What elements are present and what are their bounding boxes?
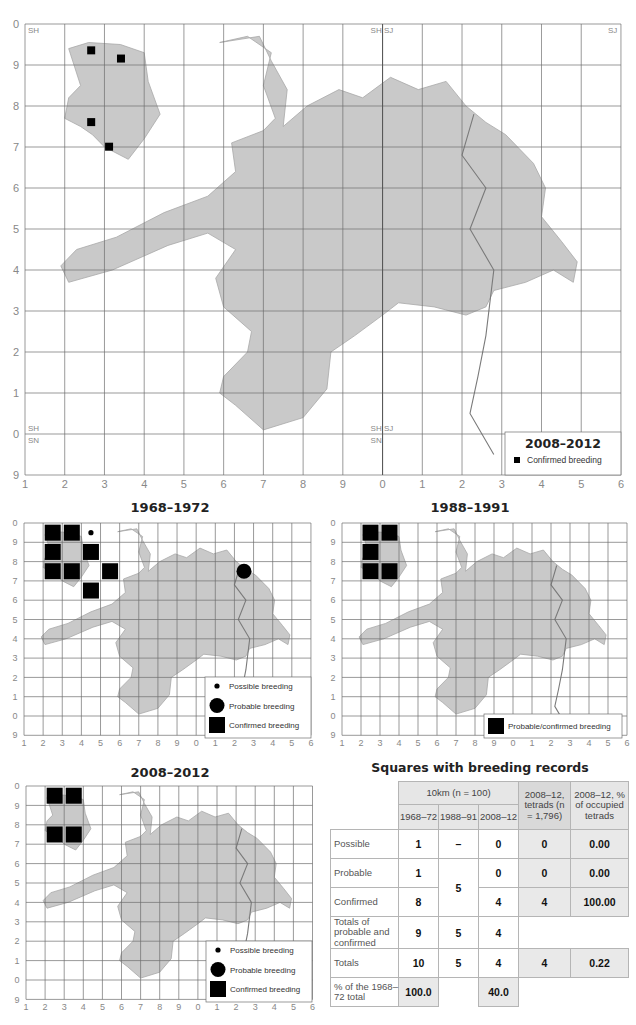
x-tick-label: 7 xyxy=(136,738,141,748)
legend-label: Probable/confirmed breeding xyxy=(508,722,611,731)
grid-square-code: SH SJ xyxy=(371,26,394,35)
x-tick-label: 2 xyxy=(232,738,237,748)
cell-2008-12: 0 xyxy=(479,830,519,859)
y-tick-label: 3 xyxy=(330,653,335,663)
x-tick-label: 1 xyxy=(214,1002,219,1012)
small-square-icon xyxy=(514,457,520,463)
legend-label: Confirmed breeding xyxy=(230,985,300,994)
x-tick-label: 5 xyxy=(98,738,103,748)
y-tick-label: 8 xyxy=(14,820,19,830)
x-tick-label: 1 xyxy=(339,738,344,748)
main-map-canvas: 1234567890123456098765432109SHSH SJSJSHS… xyxy=(0,0,636,490)
grid-square-code: SH xyxy=(28,26,39,35)
main-map: 1234567890123456098765432109SHSH SJSJSHS… xyxy=(0,0,636,490)
cell-pct: 0.22 xyxy=(571,949,629,978)
probable-breeding-marker xyxy=(236,564,251,579)
y-tick-label: 0 xyxy=(13,18,19,30)
x-tick-label: 9 xyxy=(176,1002,181,1012)
y-tick-label: 2 xyxy=(14,936,19,946)
y-tick-label: 1 xyxy=(12,692,17,702)
y-tick-label: 8 xyxy=(330,557,335,567)
y-tick-label: 8 xyxy=(12,557,17,567)
y-tick-label: 9 xyxy=(14,801,19,811)
y-tick-label: 0 xyxy=(14,781,19,791)
y-tick-label: 7 xyxy=(330,576,335,586)
x-tick-label: 4 xyxy=(141,478,147,490)
small-map-1988-1991: 1234567890123456098765432109Probable/con… xyxy=(318,515,636,755)
y-tick-label: 7 xyxy=(13,141,19,153)
empty-cell xyxy=(571,917,629,949)
grid-square-code: SN xyxy=(371,436,382,445)
table-row-probable: Probable 1 5 0 0 0.00 xyxy=(331,859,629,888)
table-row-totals-probable-confirmed: Totals of probable and confirmed 9 5 4 xyxy=(331,917,629,949)
y-tick-label: 9 xyxy=(12,730,17,740)
x-tick-label: 6 xyxy=(618,478,624,490)
x-tick-label: 1 xyxy=(213,738,218,748)
y-tick-label: 1 xyxy=(13,387,19,399)
cell-tetrads: 4 xyxy=(519,888,571,917)
header-pct-occupied: 2008–12, % of occupied tetrads xyxy=(571,782,629,830)
x-tick-label: 6 xyxy=(119,1002,124,1012)
y-tick-label: 0 xyxy=(12,711,17,721)
map-title-2008-2012: 2008–2012 xyxy=(100,765,240,780)
y-tick-label: 6 xyxy=(12,595,17,605)
header-10km: 10km (n = 100) xyxy=(399,782,519,805)
y-tick-label: 0 xyxy=(12,518,17,528)
legend-title: 2008–2012 xyxy=(525,436,601,451)
table-corner xyxy=(331,782,399,805)
x-tick-label: 5 xyxy=(289,738,294,748)
table-row-possible: Possible 1 – 0 0 0.00 xyxy=(331,830,629,859)
x-tick-label: 4 xyxy=(538,478,544,490)
x-tick-label: 3 xyxy=(251,738,256,748)
cell-1968-72: 100.0 xyxy=(399,978,439,1007)
x-tick-label: 3 xyxy=(60,738,65,748)
y-tick-label: 8 xyxy=(13,100,19,112)
row-label: Possible xyxy=(331,830,399,859)
confirmed-breeding-marker xyxy=(363,544,379,560)
y-tick-label: 0 xyxy=(330,518,335,528)
table-title: Squares with breeding records xyxy=(330,760,630,775)
cell-1988-91: 5 xyxy=(439,917,479,949)
y-tick-label: 1 xyxy=(330,692,335,702)
empty-cell xyxy=(519,978,571,1007)
table-corner xyxy=(331,805,399,830)
y-tick-label: 4 xyxy=(330,634,335,644)
y-tick-label: 2 xyxy=(13,346,19,358)
x-tick-label: 8 xyxy=(157,1002,162,1012)
y-tick-label: 2 xyxy=(12,673,17,683)
subheader-2008-12: 2008–12 xyxy=(479,805,519,830)
x-tick-label: 3 xyxy=(253,1002,258,1012)
cell-1968-72: 1 xyxy=(399,859,439,888)
x-tick-label: 8 xyxy=(155,738,160,748)
x-tick-label: 3 xyxy=(101,478,107,490)
empty-cell xyxy=(439,978,479,1007)
cell-tetrads: 4 xyxy=(519,949,571,978)
x-tick-label: 5 xyxy=(415,738,420,748)
y-tick-label: 3 xyxy=(13,305,19,317)
legend-label: Possible breeding xyxy=(230,946,294,955)
x-tick-label: 5 xyxy=(181,478,187,490)
legend-label: Probable breeding xyxy=(230,966,295,975)
y-tick-label: 0 xyxy=(13,428,19,440)
confirmed-breeding-marker xyxy=(363,563,379,579)
x-tick-label: 1 xyxy=(23,1002,28,1012)
confirmed-breeding-marker xyxy=(64,525,80,541)
y-tick-label: 4 xyxy=(12,634,17,644)
x-tick-label: 1 xyxy=(22,478,28,490)
empty-cell xyxy=(519,917,571,949)
legend-label: Confirmed breeding xyxy=(229,721,299,730)
confirmed-breeding-icon xyxy=(209,717,225,733)
x-tick-label: 4 xyxy=(79,738,84,748)
confirmed-breeding-marker xyxy=(47,788,63,804)
x-tick-label: 4 xyxy=(81,1002,86,1012)
map-title-1968-1972: 1968–1972 xyxy=(100,500,240,515)
confirmed-breeding-marker xyxy=(47,827,63,843)
cell-2008-12: 4 xyxy=(479,888,519,917)
cell-1988-91-merged: 5 xyxy=(439,859,479,917)
probable-breeding-icon xyxy=(211,962,226,977)
x-tick-label: 3 xyxy=(567,738,572,748)
small-map-1968-1972: 1234567890123456098765432109Possible bre… xyxy=(0,515,318,755)
x-tick-label: 0 xyxy=(380,478,386,490)
breeding-records-table-section: Squares with breeding records 10km (n = … xyxy=(330,760,630,1007)
y-tick-label: 9 xyxy=(330,730,335,740)
